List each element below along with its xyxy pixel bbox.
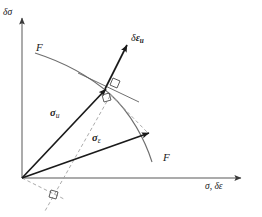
- sigma-u-label: σu: [50, 108, 59, 120]
- flow-vector-label: δεu: [131, 33, 144, 45]
- yield-surface-label-bottom: F: [163, 152, 170, 163]
- right-angle-marker-tangent: [110, 78, 120, 88]
- yield-surface-label-top-text: F: [36, 41, 43, 53]
- x-axis-label: σ, δε: [205, 182, 223, 192]
- figure-root: δσ σ, δε δεu σu σε F F: [0, 0, 262, 217]
- flow-vector-subscript: u: [140, 37, 144, 45]
- y-axis-label: δσ: [3, 8, 12, 18]
- right-angle-marker-origin: [49, 190, 58, 199]
- yield-surface-label-bottom-text: F: [163, 151, 170, 163]
- sigma-u-subscript: u: [56, 111, 60, 120]
- tangent-line: [78, 73, 139, 102]
- x-axis-label-text: σ, δε: [205, 181, 223, 191]
- sigma-epsilon-subscript: ε: [98, 136, 101, 145]
- flow-normal-vector: [105, 45, 127, 89]
- y-axis-label-text: δσ: [3, 7, 12, 17]
- sigma-epsilon-label: σε: [92, 133, 101, 145]
- yield-surface-label-top: F: [36, 42, 43, 53]
